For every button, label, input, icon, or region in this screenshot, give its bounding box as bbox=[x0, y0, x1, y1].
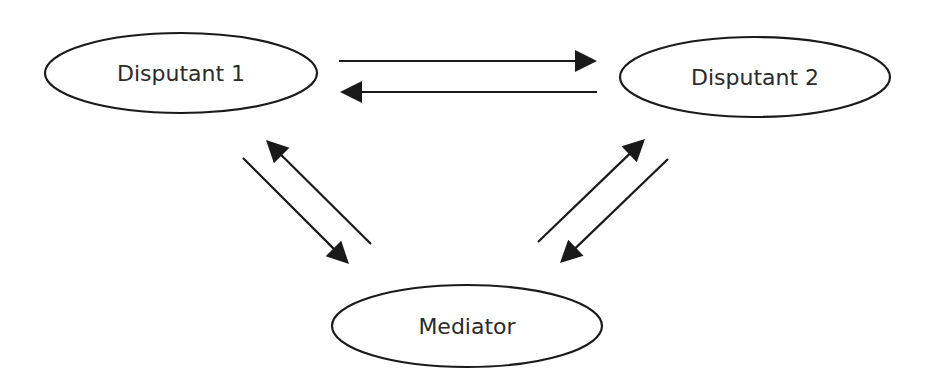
arrow-shaft bbox=[280, 154, 371, 244]
arrow-disputant2-to-mediator bbox=[560, 159, 668, 263]
arrow-disputant1-to-disputant2 bbox=[339, 50, 597, 72]
mediator-label: Mediator bbox=[418, 314, 515, 339]
arrowhead-icon bbox=[340, 81, 362, 103]
arrow-shaft bbox=[243, 158, 335, 250]
arrow-disputant1-to-mediator bbox=[243, 158, 349, 264]
arrow-mediator-to-disputant1 bbox=[266, 140, 371, 244]
edges-layer bbox=[243, 50, 668, 264]
arrowhead-icon bbox=[575, 50, 597, 72]
arrow-disputant2-to-disputant1 bbox=[340, 81, 597, 103]
disputant-1-label: Disputant 1 bbox=[117, 61, 245, 86]
mediation-diagram: Disputant 1 Disputant 2 Mediator bbox=[0, 0, 930, 378]
disputant-2-label: Disputant 2 bbox=[691, 65, 819, 90]
arrow-shaft bbox=[538, 153, 631, 242]
arrow-shaft bbox=[574, 159, 668, 249]
arrow-mediator-to-disputant2 bbox=[538, 139, 645, 242]
